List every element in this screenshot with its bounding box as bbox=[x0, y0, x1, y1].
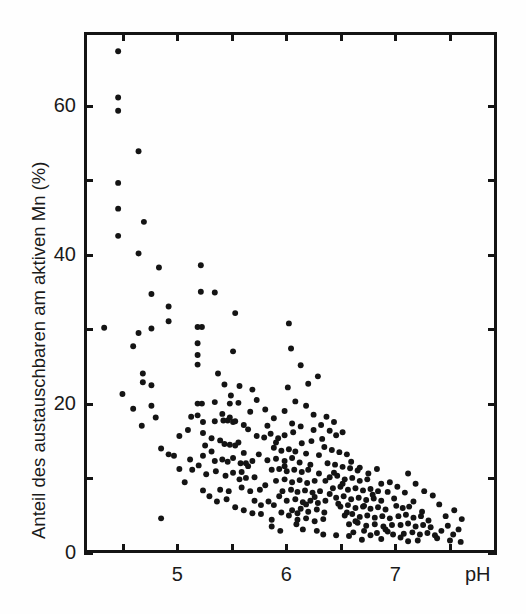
data-point bbox=[364, 476, 370, 482]
data-point bbox=[426, 518, 432, 524]
data-point bbox=[345, 502, 351, 508]
data-point bbox=[171, 453, 177, 459]
data-point bbox=[230, 470, 236, 476]
data-point bbox=[447, 537, 453, 543]
data-point bbox=[424, 530, 430, 536]
data-point bbox=[200, 487, 206, 493]
data-point bbox=[232, 418, 238, 424]
data-point bbox=[232, 504, 238, 510]
data-point bbox=[327, 428, 333, 434]
data-point bbox=[300, 526, 306, 532]
data-point bbox=[282, 463, 288, 469]
data-point bbox=[405, 538, 411, 544]
data-point bbox=[198, 262, 204, 268]
data-point bbox=[428, 524, 434, 530]
data-point bbox=[303, 515, 309, 521]
data-point bbox=[243, 475, 249, 481]
data-point bbox=[278, 510, 284, 516]
data-point bbox=[312, 478, 318, 484]
data-point bbox=[130, 406, 136, 412]
y-tick-mark bbox=[488, 254, 497, 257]
data-point bbox=[245, 426, 251, 432]
data-point bbox=[239, 469, 245, 475]
data-point bbox=[254, 397, 260, 403]
data-point bbox=[356, 495, 362, 501]
data-point bbox=[254, 433, 260, 439]
data-point bbox=[130, 343, 136, 349]
data-point bbox=[375, 504, 381, 510]
data-point bbox=[372, 515, 378, 521]
data-point bbox=[314, 528, 320, 534]
x-tick-label: 7 bbox=[390, 563, 401, 586]
data-point bbox=[420, 522, 426, 528]
data-point bbox=[139, 423, 145, 429]
y-tick-label: 0 bbox=[36, 541, 76, 564]
data-point bbox=[195, 412, 201, 418]
y-tick-label: 20 bbox=[36, 392, 76, 415]
data-point bbox=[269, 517, 275, 523]
data-point bbox=[293, 521, 299, 527]
data-point bbox=[321, 444, 327, 450]
data-point bbox=[219, 411, 225, 417]
data-point-layer bbox=[87, 35, 494, 550]
x-tick-mark bbox=[231, 544, 234, 553]
data-point bbox=[365, 471, 371, 477]
data-point bbox=[436, 501, 442, 507]
data-point bbox=[324, 414, 330, 420]
data-point bbox=[212, 418, 218, 424]
data-point bbox=[200, 419, 206, 425]
data-point bbox=[215, 370, 221, 376]
data-point bbox=[212, 290, 218, 296]
data-point bbox=[203, 471, 209, 477]
data-point bbox=[115, 95, 121, 101]
data-point bbox=[252, 474, 258, 480]
data-point bbox=[238, 460, 244, 466]
data-point bbox=[361, 528, 367, 534]
data-point bbox=[115, 108, 121, 114]
data-point bbox=[195, 352, 201, 358]
data-point bbox=[290, 429, 296, 435]
data-point bbox=[332, 462, 338, 468]
data-point bbox=[375, 488, 381, 494]
data-point bbox=[188, 414, 194, 420]
data-point bbox=[292, 496, 298, 502]
scatter-plot-figure: Anteil des austauschbaren am aktiven Mn … bbox=[0, 0, 526, 614]
data-point bbox=[258, 511, 264, 517]
data-point bbox=[353, 518, 359, 524]
data-point bbox=[228, 393, 234, 399]
data-point bbox=[340, 464, 346, 470]
data-point bbox=[311, 427, 317, 433]
data-point bbox=[140, 379, 146, 385]
data-point bbox=[383, 526, 389, 532]
x-axis-name: pH bbox=[465, 563, 491, 586]
data-point bbox=[237, 476, 243, 482]
data-point bbox=[249, 458, 255, 464]
data-point bbox=[289, 507, 295, 513]
x-tick-label: 6 bbox=[281, 563, 292, 586]
data-point bbox=[394, 484, 400, 490]
data-point bbox=[374, 466, 380, 472]
data-point bbox=[282, 408, 288, 414]
x-tick-label: 5 bbox=[172, 563, 183, 586]
data-point bbox=[327, 491, 333, 497]
data-point bbox=[219, 457, 225, 463]
data-point bbox=[241, 450, 247, 456]
data-point bbox=[413, 481, 419, 487]
data-point bbox=[322, 498, 328, 504]
data-point bbox=[136, 330, 142, 336]
x-tick-mark bbox=[122, 544, 125, 553]
data-point bbox=[282, 476, 288, 482]
data-point bbox=[305, 509, 311, 515]
x-tick-mark bbox=[176, 32, 179, 41]
data-point bbox=[212, 458, 218, 464]
data-point bbox=[273, 478, 279, 484]
y-tick-mark bbox=[488, 328, 497, 331]
data-point bbox=[329, 447, 335, 453]
data-point bbox=[389, 522, 395, 528]
data-point bbox=[257, 487, 263, 493]
data-point bbox=[445, 523, 451, 529]
data-point bbox=[209, 448, 215, 454]
data-point bbox=[230, 455, 236, 461]
data-point bbox=[271, 502, 277, 508]
data-point bbox=[187, 457, 193, 463]
